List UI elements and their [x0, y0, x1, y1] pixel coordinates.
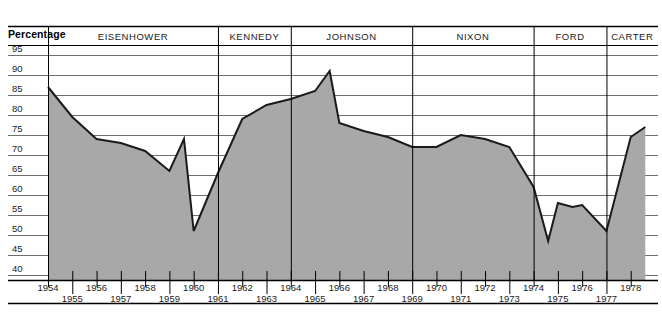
y-tick-label-65: 65 [12, 163, 23, 174]
x-tick-label-1959: 1959 [144, 293, 194, 304]
x-tick-label-1975: 1975 [533, 293, 583, 304]
y-tick-label-45: 45 [12, 243, 23, 254]
x-tick-label-1968: 1968 [363, 282, 413, 293]
y-tick-label-85: 85 [12, 83, 23, 94]
y-tick-label-40: 40 [12, 263, 23, 274]
term-label-johnson: JOHNSON [282, 31, 422, 42]
chart-canvas [0, 0, 662, 314]
term-label-eisenhower: EISENHOWER [63, 31, 203, 42]
x-tick-label-1973: 1973 [484, 293, 534, 304]
x-tick-label-1963: 1963 [242, 293, 292, 304]
percentage-area-chart: Percentage EISENHOWERKENNEDYJOHNSONNIXON… [0, 0, 662, 314]
x-tick-label-1961: 1961 [193, 293, 243, 304]
y-axis-title: Percentage [8, 28, 66, 40]
y-tick-label-50: 50 [12, 223, 23, 234]
x-tick-label-1976: 1976 [557, 282, 607, 293]
x-tick-label-1954: 1954 [23, 282, 73, 293]
x-tick-label-1958: 1958 [120, 282, 170, 293]
x-tick-label-1964: 1964 [266, 282, 316, 293]
x-tick-label-1966: 1966 [314, 282, 364, 293]
y-tick-label-70: 70 [12, 143, 23, 154]
x-tick-label-1960: 1960 [169, 282, 219, 293]
y-tick-label-60: 60 [12, 183, 23, 194]
x-tick-label-1962: 1962 [217, 282, 267, 293]
x-tick-label-1977: 1977 [581, 293, 631, 304]
y-tick-label-55: 55 [12, 203, 23, 214]
x-tick-label-1971: 1971 [436, 293, 486, 304]
y-tick-label-90: 90 [12, 63, 23, 74]
x-tick-label-1972: 1972 [460, 282, 510, 293]
x-tick-label-1967: 1967 [339, 293, 389, 304]
x-tick-label-1955: 1955 [47, 293, 97, 304]
y-tick-label-95: 95 [12, 43, 23, 54]
x-tick-label-1957: 1957 [96, 293, 146, 304]
x-tick-label-1956: 1956 [72, 282, 122, 293]
x-tick-label-1978: 1978 [606, 282, 656, 293]
x-tick-label-1965: 1965 [290, 293, 340, 304]
x-tick-label-1974: 1974 [509, 282, 559, 293]
x-tick-label-1970: 1970 [411, 282, 461, 293]
y-tick-label-75: 75 [12, 123, 23, 134]
y-tick-label-80: 80 [12, 103, 23, 114]
x-tick-label-1969: 1969 [387, 293, 437, 304]
term-label-carter: CARTER [562, 31, 662, 42]
